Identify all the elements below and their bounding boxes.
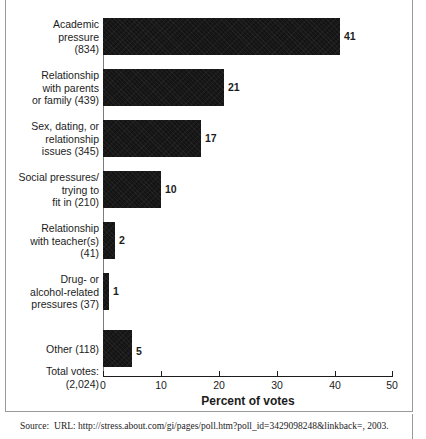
total-votes-line: (2,024) (5, 378, 99, 391)
bar-drug-alcohol (103, 273, 109, 310)
x-tick-10 (161, 371, 162, 377)
bar-relationship-parents (103, 69, 224, 106)
category-label-line: with parents (5, 82, 99, 95)
x-tick-40 (335, 371, 336, 377)
category-label-line: Academic (5, 18, 99, 31)
x-tick-label-0: 0 (100, 379, 106, 391)
category-label-sex-dating: Sex, dating, or relationship issues (345… (5, 120, 99, 158)
category-label-line: issues (345) (5, 145, 99, 158)
category-label-line: fit in (210) (5, 196, 99, 209)
category-label-line: Drug- or (5, 273, 99, 286)
bar-fill (103, 273, 109, 310)
bar-social-pressures (103, 171, 161, 208)
chart-figure: Academic pressure (834) Relationship wit… (0, 0, 426, 439)
category-label-line: Other (118) (5, 343, 99, 356)
bar-fill (103, 18, 340, 55)
bar-value-academic-pressure: 41 (344, 30, 356, 42)
source-text: URL: http://stress.about.com/gi/pages/po… (54, 421, 388, 431)
category-label-line: Relationship (5, 222, 99, 235)
x-tick-label-10: 10 (155, 379, 167, 391)
x-tick-30 (277, 371, 278, 377)
bar-relationship-teachers (103, 222, 115, 259)
category-label-line: Social pressures/ (5, 171, 99, 184)
category-label-line: relationship (5, 133, 99, 146)
category-label-academic-pressure: Academic pressure (834) (5, 18, 99, 56)
category-label-social-pressures: Social pressures/ trying to fit in (210) (5, 171, 99, 209)
bar-sex-dating (103, 120, 201, 157)
category-label-relationship-teachers: Relationship with teacher(s) (41) (5, 222, 99, 260)
x-axis-title: Percent of votes (103, 394, 393, 408)
source-note: Source:URL: http://stress.about.com/gi/p… (20, 421, 389, 431)
category-label-line: (41) (5, 247, 99, 260)
x-tick-label-50: 50 (386, 379, 398, 391)
bar-fill (103, 330, 132, 367)
category-label-line: pressure (5, 31, 99, 44)
bar-fill (103, 120, 201, 157)
total-votes-line: Total votes: (5, 365, 99, 378)
bar-fill (103, 171, 161, 208)
total-votes-label: Total votes: (2,024) (5, 365, 99, 390)
bar-value-drug-alcohol: 1 (113, 285, 119, 297)
bar-value-relationship-parents: 21 (228, 81, 240, 93)
category-label-line: or family (439) (5, 94, 99, 107)
bar-value-social-pressures: 10 (165, 183, 177, 195)
category-label-other: Other (118) (5, 343, 99, 356)
x-tick-label-30: 30 (271, 379, 283, 391)
x-tick-50 (392, 371, 393, 377)
x-tick-label-20: 20 (213, 379, 225, 391)
category-label-drug-alcohol: Drug- or alcohol-related pressures (37) (5, 273, 99, 311)
bar-fill (103, 222, 115, 259)
bar-other (103, 330, 132, 367)
category-label-line: alcohol-related (5, 286, 99, 299)
category-label-relationship-parents: Relationship with parents or family (439… (5, 69, 99, 107)
x-tick-label-40: 40 (329, 379, 341, 391)
category-label-line: trying to (5, 184, 99, 197)
category-label-line: (834) (5, 43, 99, 56)
category-label-line: Sex, dating, or (5, 120, 99, 133)
category-label-line: with teacher(s) (5, 235, 99, 248)
x-axis-line (103, 376, 393, 377)
category-label-line: pressures (37) (5, 298, 99, 311)
bar-value-other: 5 (136, 345, 142, 357)
bar-value-sex-dating: 17 (205, 132, 217, 144)
bar-academic-pressure (103, 18, 340, 55)
category-label-line: Relationship (5, 69, 99, 82)
plot-area: Academic pressure (834) Relationship wit… (0, 0, 426, 439)
x-tick-0 (103, 371, 104, 377)
x-tick-20 (219, 371, 220, 377)
bar-value-relationship-teachers: 2 (119, 234, 125, 246)
bar-fill (103, 69, 224, 106)
source-label: Source: (20, 421, 49, 431)
